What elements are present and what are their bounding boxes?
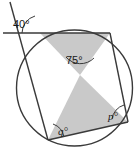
label-q-degrees: q° [58, 125, 69, 137]
geometry-figure: 40° 75° q° p° [0, 0, 139, 151]
label-p-degrees: p° [107, 110, 119, 122]
geometry-canvas: 40° 75° q° p° [0, 0, 139, 151]
label-40-degrees: 40° [13, 18, 30, 30]
label-75-degrees: 75° [66, 54, 83, 66]
